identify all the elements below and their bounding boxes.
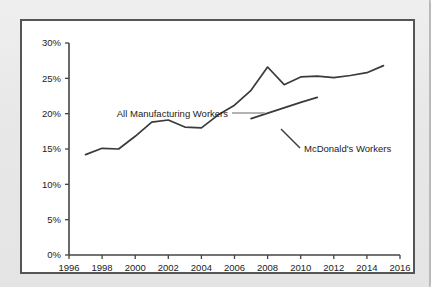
x-axis-tick-label: 2012 (323, 262, 344, 272)
y-axis-tick-label: 5% (47, 214, 61, 225)
y-axis-tick-label: 25% (42, 73, 62, 84)
x-axis-tick-label: 2002 (158, 262, 179, 272)
y-axis-tick-label: 30% (42, 37, 62, 48)
chart-panel: 0%5%10%15%20%25%30%199619982000200220042… (20, 19, 415, 274)
screenshot-root: 0%5%10%15%20%25%30%199619982000200220042… (0, 0, 431, 287)
x-axis-tick-label: 2016 (389, 262, 410, 272)
x-axis-tick-label: 2010 (290, 262, 311, 272)
x-axis-tick-label: 2004 (191, 262, 212, 272)
y-axis-tick-label: 15% (42, 143, 62, 154)
x-axis-tick-label: 2006 (224, 262, 245, 272)
x-axis-tick-label: 2014 (356, 262, 377, 272)
annotation-label-all-manufacturing-workers: All Manufacturing Workers (117, 108, 228, 119)
line-chart: 0%5%10%15%20%25%30%199619982000200220042… (22, 21, 413, 272)
x-axis-tick-label: 2008 (257, 262, 278, 272)
y-axis-tick-label: 0% (47, 249, 61, 260)
x-axis-tick-label: 1996 (58, 262, 79, 272)
y-axis-tick-label: 10% (42, 179, 62, 190)
x-axis-tick-label: 2000 (125, 262, 146, 272)
series-line-mcdonalds-workers (251, 97, 317, 118)
y-axis-tick-label: 20% (42, 108, 62, 119)
annotation-label-mcdonalds-workers: McDonald's Workers (304, 143, 391, 154)
annotation-leader-line (281, 129, 300, 148)
x-axis-tick-label: 1998 (92, 262, 113, 272)
